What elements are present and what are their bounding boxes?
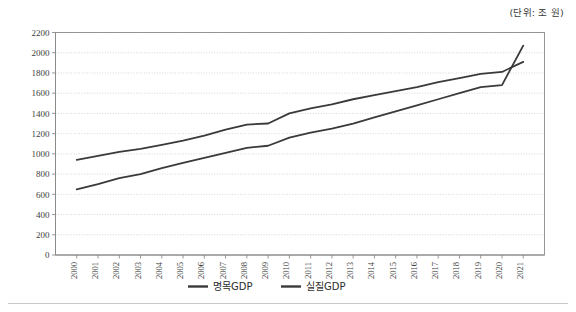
x-tick-label: 2021 xyxy=(515,262,525,279)
y-tick-label: 2000 xyxy=(32,48,51,58)
y-tick-label: 1600 xyxy=(32,88,51,98)
x-tick-label: 2015 xyxy=(388,262,398,279)
x-tick-label: 2000 xyxy=(69,262,79,279)
x-tick-label: 2010 xyxy=(281,262,291,279)
series-group xyxy=(77,46,523,190)
y-tick-label: 800 xyxy=(36,169,50,179)
gridlines-group xyxy=(56,33,545,256)
series-line-2 xyxy=(77,46,523,190)
chart-figure: (단위: 조 원) 020040060080010001200140016001… xyxy=(0,0,576,312)
y-tick-label: 2200 xyxy=(32,28,51,38)
x-tick-label: 2003 xyxy=(133,262,143,279)
chart-legend: 명목GDP실질GDP xyxy=(188,281,345,292)
x-tick-label: 2011 xyxy=(303,262,313,279)
x-tick-label: 2013 xyxy=(345,262,355,279)
y-tick-label: 200 xyxy=(36,230,50,240)
x-tick-label: 2016 xyxy=(409,262,419,279)
y-tick-label: 1000 xyxy=(32,149,51,159)
x-tick-label: 2009 xyxy=(260,262,270,279)
gdp-line-chart: 0200400600800100012001400160018002000220… xyxy=(0,0,576,312)
x-tick-label: 2014 xyxy=(366,261,376,279)
x-tick-label: 2001 xyxy=(90,262,100,279)
legend-label-2: 실질GDP xyxy=(306,281,345,292)
y-tick-label: 1200 xyxy=(32,129,51,139)
y-tick-label: 600 xyxy=(36,190,50,200)
y-tick-label: 400 xyxy=(36,210,50,220)
plot-area-frame xyxy=(56,33,545,256)
x-tick-label: 2020 xyxy=(494,262,504,279)
x-tick-label: 2004 xyxy=(154,261,164,279)
x-tick-label: 2006 xyxy=(196,262,206,279)
x-tick-label: 2005 xyxy=(175,262,185,279)
x-tick-label: 2007 xyxy=(218,262,228,279)
y-axis-ticks: 0200400600800100012001400160018002000220… xyxy=(32,28,56,261)
y-tick-label: 1400 xyxy=(32,109,51,119)
y-tick-label: 1800 xyxy=(32,68,51,78)
x-tick-label: 2018 xyxy=(451,262,461,279)
x-tick-label: 2008 xyxy=(239,262,249,279)
x-tick-label: 2012 xyxy=(324,262,334,279)
legend-label-1: 명목GDP xyxy=(213,281,252,292)
y-tick-label: 0 xyxy=(45,250,50,260)
series-line-1 xyxy=(77,62,523,160)
x-tick-label: 2017 xyxy=(430,262,440,279)
x-tick-label: 2019 xyxy=(473,262,483,279)
x-axis-ticks: 2000200120022003200420052006200720082009… xyxy=(69,255,525,279)
x-tick-label: 2002 xyxy=(111,262,121,279)
